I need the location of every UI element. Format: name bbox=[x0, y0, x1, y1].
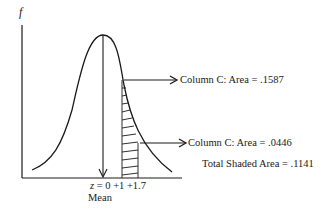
annotation-area-z17: Column C: Area = .0446 bbox=[188, 138, 292, 149]
x-axis-tick-labels: z = 0 +1 +1.7 bbox=[90, 181, 146, 192]
z-values-label: = 0 +1 +1.7 bbox=[97, 180, 146, 191]
bell-curve bbox=[32, 35, 172, 172]
shaded-region bbox=[122, 80, 138, 178]
mean-label: Mean bbox=[88, 193, 112, 204]
total-shaded-area-label: Total Shaded Area = .1141 bbox=[202, 159, 314, 170]
y-axis-label: f bbox=[19, 6, 22, 18]
normal-curve-diagram bbox=[0, 0, 330, 210]
annotation-area-z1: Column C: Area = .1587 bbox=[180, 75, 284, 86]
z-variable-label: z bbox=[90, 180, 94, 191]
